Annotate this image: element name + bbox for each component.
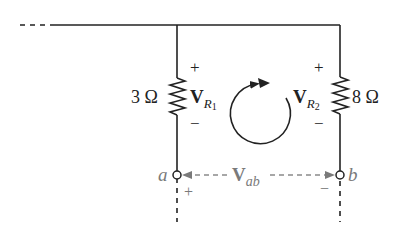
resistor-r1-icon — [170, 78, 185, 115]
terminal-b-node — [336, 171, 344, 179]
loop-arrowhead-icon — [258, 78, 270, 88]
vab-left-arrowhead-icon — [182, 171, 192, 179]
r1-minus-sign: − — [190, 114, 200, 133]
resistor-r2-icon — [333, 77, 348, 114]
terminal-a-label: a — [158, 164, 168, 185]
r2-value-label: 8 Ω — [352, 87, 379, 107]
vab-label: Vab — [232, 164, 260, 189]
r1-value-label: 3 Ω — [131, 87, 158, 107]
r1-plus-sign: + — [190, 58, 200, 77]
r2-minus-sign: − — [314, 114, 324, 133]
r1-voltage-label: VR1 — [190, 86, 217, 112]
terminal-b-label: b — [348, 164, 358, 185]
r2-plus-sign: + — [314, 58, 324, 77]
terminal-b-polarity: − — [320, 180, 329, 197]
terminal-a-node — [173, 171, 181, 179]
circuit-diagram: + − 3 Ω VR1 + − 8 Ω VR2 a b + − Vab — [0, 0, 407, 242]
r2-voltage-label: VR2 — [293, 86, 320, 112]
vab-right-arrowhead-icon — [325, 171, 335, 179]
loop-arrow-arc — [230, 84, 290, 144]
terminal-a-polarity: + — [184, 183, 193, 200]
